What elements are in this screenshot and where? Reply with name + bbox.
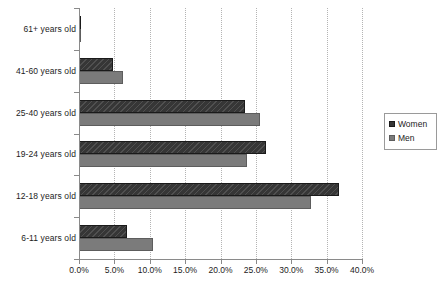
horizontal-bar-chart: 61+ years old41-60 years old25-40 years …: [0, 0, 440, 286]
y-axis-category-labels: 61+ years old41-60 years old25-40 years …: [0, 8, 76, 259]
x-axis-tick: [185, 260, 186, 264]
category-label: 61+ years old: [4, 24, 76, 34]
x-axis-tick-label: 40.0%: [342, 265, 382, 275]
x-axis-tick-label: 10.0%: [130, 265, 170, 275]
x-axis-tick: [79, 260, 80, 264]
x-axis-tick: [327, 260, 328, 264]
x-axis-tick: [221, 260, 222, 264]
bar-women: [79, 225, 127, 238]
x-axis-tick-label: 25.0%: [236, 265, 276, 275]
category-label: 41-60 years old: [4, 66, 76, 76]
y-axis-line: [79, 8, 80, 260]
legend-swatch-men: [389, 135, 395, 141]
x-axis-tick-label: 30.0%: [271, 265, 311, 275]
x-axis-tick: [291, 260, 292, 264]
gridline: [185, 8, 186, 259]
legend-label: Men: [398, 133, 415, 143]
bar-women: [79, 141, 266, 154]
y-axis-tick: [74, 8, 79, 9]
y-axis-tick: [74, 50, 79, 51]
x-axis-tick: [150, 260, 151, 264]
x-axis-tick-label: 15.0%: [165, 265, 205, 275]
legend-swatch-women: [389, 121, 395, 127]
bar-men: [79, 113, 260, 126]
bar-women: [79, 100, 245, 113]
category-label: 19-24 years old: [4, 149, 76, 159]
x-axis-tick-label: 35.0%: [307, 265, 347, 275]
x-axis-tick: [256, 260, 257, 264]
y-axis-tick: [74, 134, 79, 135]
plot-area: [79, 8, 362, 259]
legend-entry: Women: [389, 118, 427, 130]
gridline: [114, 8, 115, 259]
x-axis-tick-label: 5.0%: [94, 265, 134, 275]
bar-men: [79, 238, 153, 251]
gridline: [150, 8, 151, 259]
legend-label: Women: [398, 119, 427, 129]
x-axis-tick: [114, 260, 115, 264]
x-axis-tick-label: 20.0%: [201, 265, 241, 275]
category-label: 25-40 years old: [4, 108, 76, 118]
category-label: 6-11 years old: [4, 233, 76, 243]
gridline: [362, 8, 363, 259]
y-axis-tick: [74, 92, 79, 93]
gridline: [221, 8, 222, 259]
category-label: 12-18 years old: [4, 191, 76, 201]
gridline: [327, 8, 328, 259]
bar-women: [79, 183, 339, 196]
bar-women: [79, 58, 113, 71]
bar-men: [79, 71, 123, 84]
bar-men: [79, 196, 311, 209]
legend-entry: Men: [389, 132, 415, 144]
gridline: [256, 8, 257, 259]
gridline: [291, 8, 292, 259]
x-axis-tick: [362, 260, 363, 264]
y-axis-tick: [74, 175, 79, 176]
x-axis-tick-label: 0.0%: [59, 265, 99, 275]
bar-men: [79, 154, 247, 167]
y-axis-tick: [74, 217, 79, 218]
chart-legend: WomenMen: [384, 113, 437, 150]
